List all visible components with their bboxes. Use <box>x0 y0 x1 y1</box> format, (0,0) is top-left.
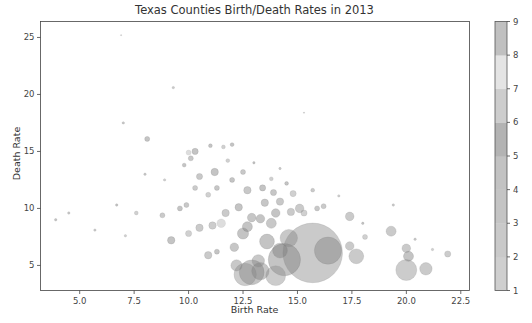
data-point <box>315 206 320 211</box>
colorbar-tick-label: 5 <box>513 151 518 161</box>
data-point <box>186 150 191 155</box>
data-point <box>338 195 340 197</box>
data-point <box>145 136 150 141</box>
data-point <box>122 122 124 124</box>
data-point <box>209 144 213 148</box>
data-point <box>345 242 354 251</box>
colorbar-band <box>495 122 507 156</box>
data-point <box>55 219 57 221</box>
colorbar-tick-label: 1 <box>513 286 518 296</box>
data-point <box>321 204 326 209</box>
colorbar-tick-label: 8 <box>513 50 518 60</box>
data-point <box>196 224 203 231</box>
data-point <box>226 159 230 163</box>
x-tick-label: 12.5 <box>234 296 253 306</box>
data-point <box>269 177 273 181</box>
colorbar-tick-label: 3 <box>513 218 518 228</box>
x-tick-label: 10.0 <box>179 296 198 306</box>
y-tick-label: 15 <box>24 146 35 156</box>
data-point <box>214 249 219 254</box>
colorbar-tick-label: 4 <box>513 185 518 195</box>
data-point <box>414 238 416 240</box>
data-point <box>205 252 212 259</box>
data-point <box>134 211 138 215</box>
colorbar-tick-label: 2 <box>513 252 518 262</box>
data-point <box>303 112 304 113</box>
data-point <box>144 173 146 175</box>
data-point <box>402 244 411 253</box>
data-point <box>276 198 283 205</box>
data-point <box>241 170 246 175</box>
data-point <box>172 86 174 88</box>
data-point <box>362 222 364 224</box>
x-tick-label: 20.0 <box>397 296 416 306</box>
data-point <box>211 168 218 175</box>
data-point <box>290 191 296 197</box>
colorbar-band <box>495 257 507 291</box>
data-point <box>271 209 280 218</box>
data-point <box>186 230 192 236</box>
data-point <box>261 199 268 206</box>
x-tick-label: 5.0 <box>73 296 87 306</box>
colorbar-tick-label: 7 <box>513 84 518 94</box>
data-point <box>266 218 276 228</box>
colorbar-band <box>495 89 507 123</box>
data-point <box>230 177 235 182</box>
x-tick-label: 17.5 <box>342 296 361 306</box>
data-point <box>279 167 281 169</box>
data-point <box>445 251 451 257</box>
data-point <box>311 188 315 192</box>
plot-area: 5.07.510.012.515.017.520.022.5 510152025… <box>0 0 532 323</box>
data-point <box>363 234 368 239</box>
data-points <box>55 35 451 286</box>
y-tick-label: 20 <box>24 89 35 99</box>
data-point <box>244 187 251 194</box>
colorbar-band <box>495 223 507 257</box>
data-point <box>242 222 252 232</box>
y-tick-label: 10 <box>24 203 35 213</box>
x-axis-ticks: 5.07.510.012.515.017.520.022.5 <box>73 291 470 306</box>
data-point <box>270 189 276 195</box>
data-point <box>217 219 226 228</box>
data-point <box>301 210 307 216</box>
data-point <box>235 204 242 211</box>
scatter-chart: Texas Counties Birth/Death Rates in 2013… <box>0 0 532 323</box>
data-point <box>209 222 216 229</box>
data-point <box>230 143 234 147</box>
data-point <box>94 229 96 231</box>
data-point <box>386 226 396 236</box>
colorbar-band <box>495 22 507 56</box>
data-point <box>253 162 255 164</box>
colorbar-tick-label: 6 <box>513 117 518 127</box>
y-tick-label: 5 <box>29 260 34 270</box>
data-point <box>124 235 126 237</box>
data-point <box>252 255 264 267</box>
colorbar: 123456789 <box>495 17 518 296</box>
data-point <box>230 243 239 252</box>
data-point <box>260 185 266 191</box>
x-tick-label: 15.0 <box>288 296 307 306</box>
y-tick-label: 25 <box>24 32 35 42</box>
data-point <box>404 251 414 261</box>
data-point <box>247 213 256 222</box>
x-tick-label: 22.5 <box>451 296 470 306</box>
data-point <box>231 260 242 271</box>
data-point <box>196 173 202 179</box>
data-point <box>260 234 275 249</box>
data-point <box>163 179 165 181</box>
data-point <box>256 214 265 223</box>
data-point <box>188 156 193 161</box>
data-point <box>193 185 198 190</box>
data-point <box>345 212 354 221</box>
data-point <box>420 263 432 275</box>
data-point <box>287 208 294 215</box>
colorbar-tick-label: 9 <box>513 17 518 27</box>
x-tick-label: 7.5 <box>127 296 141 306</box>
data-point <box>222 209 229 216</box>
data-point <box>285 182 289 186</box>
data-point <box>160 213 165 218</box>
data-point <box>396 260 417 281</box>
data-point <box>121 35 122 36</box>
y-axis-ticks: 510152025 <box>24 32 41 270</box>
data-point <box>222 145 226 149</box>
